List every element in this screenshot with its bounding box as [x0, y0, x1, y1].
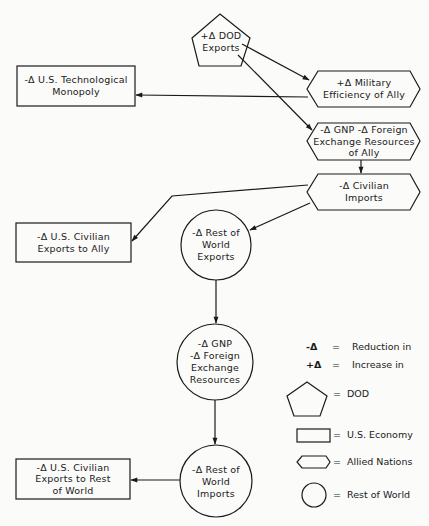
us-exports-row-node: -Δ U.S. Civilian Exports to Rest of Worl… [16, 459, 130, 499]
legend-eq: = [333, 429, 347, 441]
legend-eq: = [333, 456, 347, 468]
legend-pentagon-icon [287, 382, 327, 416]
row-gnp-node: -Δ GNP -Δ Foreign Exchange Resources [177, 336, 253, 388]
legend-eq: = [332, 359, 352, 371]
gnp-ally-node: -Δ GNP -Δ Foreign Exchange Resources of … [306, 123, 422, 160]
legend-eq: = [333, 489, 347, 501]
legend-plus-delta: +Δ=Increase in [306, 359, 404, 371]
dod-exports-node: +Δ DOD Exports [192, 28, 250, 56]
legend-rectangle: =U.S. Economy [333, 429, 413, 441]
legend-minus-delta-symbol: -Δ [306, 341, 332, 353]
legend-pentagon: =DOD [333, 388, 369, 400]
legend-hexagon-icon [297, 456, 330, 468]
legend-minus-delta-meaning: Reduction in [352, 341, 411, 352]
legend-eq: = [332, 341, 352, 353]
legend-eq: = [333, 388, 347, 400]
legend-circle-icon [302, 483, 326, 507]
legend-rectangle-meaning: U.S. Economy [347, 429, 413, 440]
legend-plus-delta-symbol: +Δ [306, 359, 332, 371]
row-imports-node: -Δ Rest of World Imports [181, 459, 251, 505]
us-exports-ally-node: -Δ U.S. Civilian Exports to Ally [16, 223, 131, 262]
row-exports-node: -Δ Rest of World Exports [181, 222, 251, 268]
edge-military-to-tech [136, 95, 308, 97]
legend-hexagon: =Allied Nations [333, 456, 412, 468]
military-efficiency-node: +Δ Military Efficiency of Ally [310, 71, 418, 107]
legend-rectangle-icon [297, 429, 330, 442]
tech-monopoly-node: -Δ U.S. Technological Monopoly [17, 66, 135, 106]
civilian-imports-node: -Δ Civilian Imports [310, 174, 418, 210]
legend-minus-delta: -Δ=Reduction in [306, 341, 411, 353]
legend-plus-delta-meaning: Increase in [352, 359, 404, 370]
legend-hexagon-meaning: Allied Nations [347, 456, 412, 467]
legend-circle: =Rest of World [333, 489, 410, 501]
edge-dod-to-gnp-ally [238, 55, 312, 130]
legend-pentagon-meaning: DOD [347, 388, 369, 399]
edge-civilian-to-row-exports [250, 203, 310, 230]
edge-dod-to-military [242, 44, 309, 80]
legend-circle-meaning: Rest of World [347, 489, 410, 500]
